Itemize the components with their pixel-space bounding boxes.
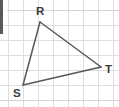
triangle-diagram-canvas: R S T bbox=[0, 0, 119, 107]
triangle-edges bbox=[23, 22, 101, 85]
page-edge-artifact bbox=[0, 0, 3, 34]
triangle-edge-rs bbox=[23, 22, 40, 85]
vertex-label-r: R bbox=[36, 5, 45, 17]
geometry-figure-triangle-rst: R S T bbox=[0, 0, 119, 107]
triangle-edge-rt bbox=[40, 22, 101, 67]
vertex-label-s: S bbox=[13, 87, 21, 99]
triangle-edge-st bbox=[23, 67, 101, 85]
vertex-label-t: T bbox=[105, 63, 112, 75]
